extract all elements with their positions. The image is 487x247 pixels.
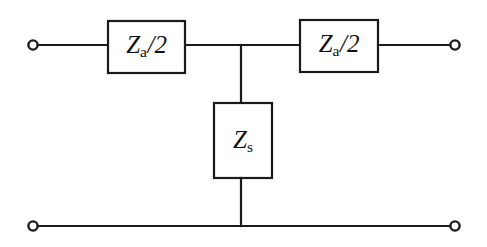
shunt-symbol-var: Z (233, 126, 247, 153)
series-impedance-right-label: Za/2 (300, 31, 378, 59)
circuit-schematic-canvas (0, 0, 487, 247)
shunt-symbol-sub: s (247, 138, 253, 155)
output-terminal-bottom-icon (450, 221, 459, 230)
input-terminal-bottom-icon (28, 221, 37, 230)
series-left-symbol-num: 2 (154, 31, 167, 58)
series-impedance-left-label: Za/2 (108, 32, 185, 60)
shunt-impedance-label: Zs (214, 127, 272, 155)
output-terminal-top-icon (450, 40, 459, 49)
series-right-symbol-num: 2 (347, 30, 360, 57)
circuit-diagram: Za/2 Za/2 Zs (0, 0, 487, 247)
series-left-symbol-sub: a (140, 43, 147, 60)
series-left-symbol-var: Z (126, 31, 140, 58)
series-right-symbol-slash: / (339, 30, 346, 57)
input-terminal-top-icon (28, 40, 37, 49)
series-right-symbol-var: Z (319, 30, 333, 57)
